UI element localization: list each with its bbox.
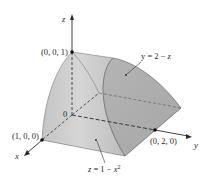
- y-axis-arrow-icon: [186, 134, 192, 139]
- surface-label-cylinder: z = 1 − x2: [87, 164, 120, 174]
- point-0-0-1: [70, 50, 74, 54]
- point-1-0-0: [40, 138, 44, 142]
- leader-dot-plane: [125, 74, 127, 76]
- z-axis-label: z: [61, 14, 66, 24]
- z-axis-arrow-icon: [70, 14, 74, 20]
- origin-label: 0: [63, 109, 67, 119]
- y-axis-label: y: [193, 140, 198, 150]
- point-label-0-0-1: (0, 0, 1): [41, 47, 68, 57]
- leader-dot-cylinder: [95, 139, 97, 141]
- point-label-0-2-0: (0, 2, 0): [150, 136, 177, 146]
- x-axis: [27, 140, 42, 153]
- surface-label-plane: y = 2 − z: [141, 51, 172, 61]
- point-0-2-0: [153, 128, 157, 132]
- x-axis-label: x: [14, 151, 19, 161]
- point-label-1-0-0: (1, 0, 0): [12, 131, 39, 141]
- solid-region-diagram: z x y 0 (0, 0, 1) (1, 0, 0) (0, 2, 0) y …: [0, 0, 203, 186]
